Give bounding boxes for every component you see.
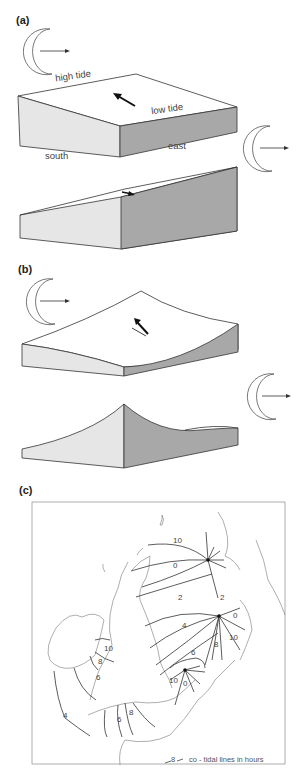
east-label: east (168, 140, 186, 151)
moon-crescent-icon (26, 279, 55, 325)
map-frame (32, 502, 285, 764)
cotidal-label: 4 (182, 621, 187, 630)
cotidal-label: 4 (63, 711, 68, 720)
south-label: south (45, 150, 68, 161)
cotidal-label: 6 (117, 715, 122, 724)
cotidal-label: 8 (98, 657, 103, 666)
cotidal-label: 6 (96, 673, 101, 682)
panel-b-peaked-tide-block (22, 404, 238, 468)
cotidal-label: 10 (169, 676, 178, 685)
legend-text: co - tidal lines in hours (189, 755, 264, 764)
cotidal-label: 8 (214, 640, 219, 649)
panel-b-curved-tide-block (22, 291, 238, 376)
cotidal-label: 6 (191, 648, 196, 657)
arrow-right-icon (40, 49, 70, 53)
diagram-canvas: 10 0 2 2 0 4 10 8 6 10 0 10 8 6 4 6 8 (0, 0, 305, 783)
cotidal-label: 8 (129, 708, 134, 717)
cotidal-label: 2 (178, 593, 183, 602)
moon-crescent-icon (247, 374, 276, 420)
moon-crescent-icon (243, 126, 272, 172)
arrow-right-icon (40, 299, 70, 303)
cotidal-label: 2 (220, 593, 225, 602)
legend-value: 8 (171, 755, 175, 764)
cotidal-label: 0 (173, 561, 178, 570)
panel-b-label: (b) (18, 263, 32, 275)
cotidal-label: 10 (173, 536, 182, 545)
panel-c-label: (c) (19, 484, 32, 496)
cotidal-label: 10 (229, 633, 238, 642)
arrow-right-icon (262, 394, 291, 398)
panel-a-low-tide-block (20, 167, 237, 249)
panel-a-high-tide-block (18, 74, 237, 157)
arrow-right-icon (260, 146, 289, 150)
cotidal-label: 0 (233, 611, 238, 620)
cotidal-label: 0 (183, 679, 188, 688)
cotidal-label: 10 (104, 644, 113, 653)
moon-crescent-icon (23, 29, 52, 75)
